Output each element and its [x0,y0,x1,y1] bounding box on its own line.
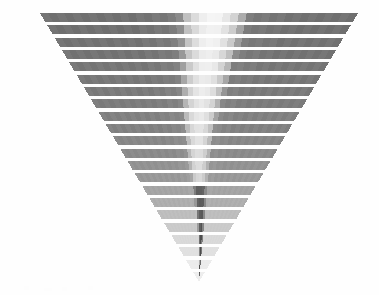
heatmap-row [69,62,329,71]
heatmap-cell [216,87,223,96]
heatmap-cell [199,75,205,84]
heatmap-cell [221,25,229,34]
heatmap-cell [199,99,204,108]
heatmap-cell [214,99,220,108]
scan-artifact-3 [62,287,67,291]
heatmap-cell [213,112,219,121]
heatmap-cell [177,99,183,108]
heatmap-cell [204,99,210,108]
heatmap-cell [192,50,199,59]
heatmap-row [149,198,248,207]
heatmap-cell [185,50,192,59]
heatmap-cell [203,136,208,145]
heatmap-cell [165,50,173,59]
heatmap-row [106,124,293,133]
heatmap-row [84,87,315,96]
heatmap-cell [194,112,199,121]
heatmap-cell [209,99,215,108]
heatmap-cell [176,87,183,96]
heatmap-cell [178,50,185,59]
heatmap-row [120,149,277,158]
heatmap-cell [202,161,206,170]
heatmap-cell [211,75,218,84]
heatmap-cell [192,161,196,170]
heatmap-cell [167,13,176,22]
heatmap-cell [219,50,227,59]
heatmap-cell [237,13,246,22]
heatmap-row [171,235,227,244]
heatmap-row [164,223,234,232]
heatmap-cell [197,223,199,232]
heatmap-cell [193,87,199,96]
heatmap-cell [218,62,225,71]
heatmap-cell [199,62,206,71]
heatmap-cell [170,38,178,47]
heatmap-cell [184,25,192,34]
heatmap-cell [191,25,199,34]
heatmap-cell [176,25,184,34]
heatmap-cell [195,136,199,145]
heatmap-cell [224,62,232,71]
heatmap-cell [184,112,190,121]
heatmap-cell [172,50,180,59]
heatmap-cell [199,198,201,207]
heatmap-cell [207,13,215,22]
heatmap-cell [210,87,216,96]
heatmap-cell [179,112,185,121]
heatmap-cell [227,38,235,47]
heatmap-cell [188,99,194,108]
heatmap-cell [173,62,180,71]
heatmap-cell [205,87,211,96]
heatmap-cell [225,50,233,59]
heatmap-cell [199,25,207,34]
heatmap-cell [236,25,245,34]
heatmap-cell [199,87,205,96]
heatmap-row [127,161,270,170]
heatmap-cell [196,173,199,182]
heatmap-cell [205,75,211,84]
heatmap-cell [199,13,207,22]
heatmap-cell [190,124,195,133]
heatmap-cell [206,38,213,47]
heatmap-cell [222,13,231,22]
heatmap-cell [202,186,205,195]
heatmap-cell [206,25,214,34]
heatmap-cell [214,13,222,22]
heatmap-cell [186,62,193,71]
heatmap-row [142,186,255,195]
heatmap-cell [193,75,199,84]
heatmap-cell [199,38,206,47]
heatmap-cell [228,25,237,34]
heatmap-cell [166,62,174,71]
heatmap-cell [183,99,189,108]
heatmap-cell [177,38,185,47]
heatmap-cell [203,124,208,133]
heatmap-cell [194,124,199,133]
heatmap-cell [208,124,213,133]
funnel-heatmap-svg [0,0,379,295]
heatmap-cell [193,62,200,71]
heatmap-cell [209,112,215,121]
heatmap-row [91,99,307,108]
heatmap-cell [181,75,188,84]
heatmap-cell [199,173,202,182]
heatmap-cell [185,38,192,47]
heatmap-cell [175,75,182,84]
heatmap-cell [182,87,188,96]
heatmap-cell [186,136,191,145]
heatmap-cell [199,50,206,59]
heatmap-cell [205,62,212,71]
heatmap-cell [204,112,209,121]
heatmap-cell [193,186,196,195]
heatmap-cell [207,136,212,145]
chart-figure [0,0,379,295]
heatmap-cell [196,186,199,195]
scan-artifact-4 [88,286,93,290]
heatmap-cell [199,186,202,195]
heatmap-cell [220,38,228,47]
heatmap-cell [230,13,239,22]
heatmap-cell [195,149,199,158]
heatmap-cell [161,25,170,34]
heatmap-cell [199,112,204,121]
heatmap-cell [199,210,201,219]
